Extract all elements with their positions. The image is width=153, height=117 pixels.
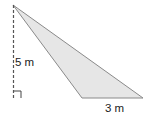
triangle	[13, 5, 143, 98]
base-label: 3 m	[105, 102, 124, 114]
right-angle-marker	[14, 91, 21, 98]
height-label: 5 m	[15, 56, 34, 68]
triangle-diagram: 5 m 3 m	[0, 0, 153, 117]
